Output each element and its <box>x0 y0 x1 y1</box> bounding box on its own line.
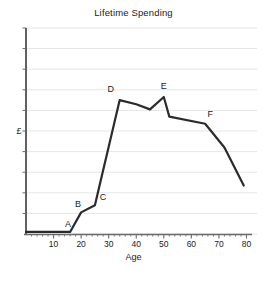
data-point-label-c: C <box>96 192 110 202</box>
x-axis-label: Age <box>0 252 267 262</box>
chart-container: Lifetime Spending £ Age 1020304050607080… <box>0 0 267 282</box>
x-tick-label: 40 <box>126 239 146 249</box>
data-point-label-a: A <box>61 219 75 229</box>
data-point-label-e: E <box>157 81 171 91</box>
y-axis-label: £ <box>12 126 26 136</box>
data-point-label-d: D <box>104 84 118 94</box>
x-tick-label: 70 <box>209 239 229 249</box>
x-tick-label: 60 <box>181 239 201 249</box>
data-point-label-f: F <box>203 109 217 119</box>
x-tick-label: 30 <box>99 239 119 249</box>
x-tick-label: 50 <box>154 239 174 249</box>
x-tick-label: 80 <box>236 239 256 249</box>
gridlines-group <box>26 28 257 234</box>
x-tick-label: 20 <box>71 239 91 249</box>
x-tick-label: 10 <box>44 239 64 249</box>
data-point-label-b: B <box>71 199 85 209</box>
